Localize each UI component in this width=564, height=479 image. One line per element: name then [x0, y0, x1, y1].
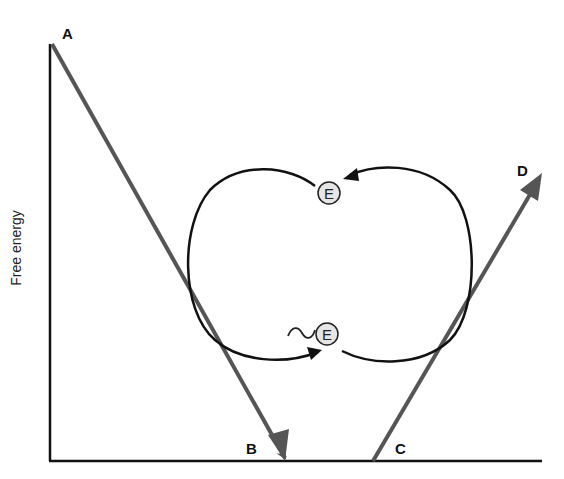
- cycle-right-loop: [342, 167, 472, 361]
- cycle-arrowhead-top-icon: [343, 168, 359, 181]
- label-a: A: [62, 25, 73, 42]
- enzyme-top-label: E: [324, 185, 334, 202]
- label-d: D: [517, 162, 528, 179]
- enzyme-bottom-label: E: [322, 326, 332, 343]
- label-c: C: [395, 440, 406, 457]
- diagram-canvas: Free energy E E A B C D: [0, 0, 564, 479]
- arrow-c-to-d: [373, 186, 535, 461]
- label-b: B: [246, 440, 257, 457]
- arrow-a-to-b: [52, 44, 285, 458]
- cycle-left-loop: [188, 169, 318, 359]
- cycle-arrowhead-bottom-icon: [307, 347, 322, 360]
- tilde-icon: [288, 328, 315, 338]
- y-axis-label: Free energy: [8, 210, 24, 285]
